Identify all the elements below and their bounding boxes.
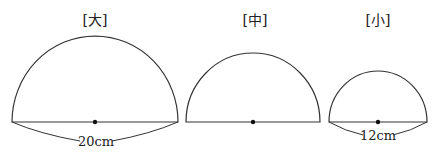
- label-medium: [中]: [243, 12, 268, 28]
- center-dot-large: [93, 120, 97, 124]
- measure-small: 12cm: [360, 128, 396, 143]
- diagram-canvas: [大] 20cm [中] [小] 12cm: [0, 0, 439, 157]
- brace-left-small: [329, 122, 363, 135]
- semicircle-small: [小] 12cm: [329, 12, 427, 143]
- brace-right-large: [112, 122, 178, 141]
- center-dot-small: [376, 120, 380, 124]
- measure-large: 20cm: [78, 134, 114, 149]
- label-large: [大]: [83, 12, 108, 28]
- semicircle-medium: [中]: [186, 12, 320, 124]
- semicircle-large: [大] 20cm: [12, 12, 178, 149]
- semicircles-diagram: [大] 20cm [中] [小] 12cm: [0, 0, 439, 157]
- brace-left-large: [12, 122, 80, 141]
- brace-right-small: [393, 122, 427, 135]
- center-dot-medium: [251, 120, 255, 124]
- label-small: [小]: [366, 12, 391, 28]
